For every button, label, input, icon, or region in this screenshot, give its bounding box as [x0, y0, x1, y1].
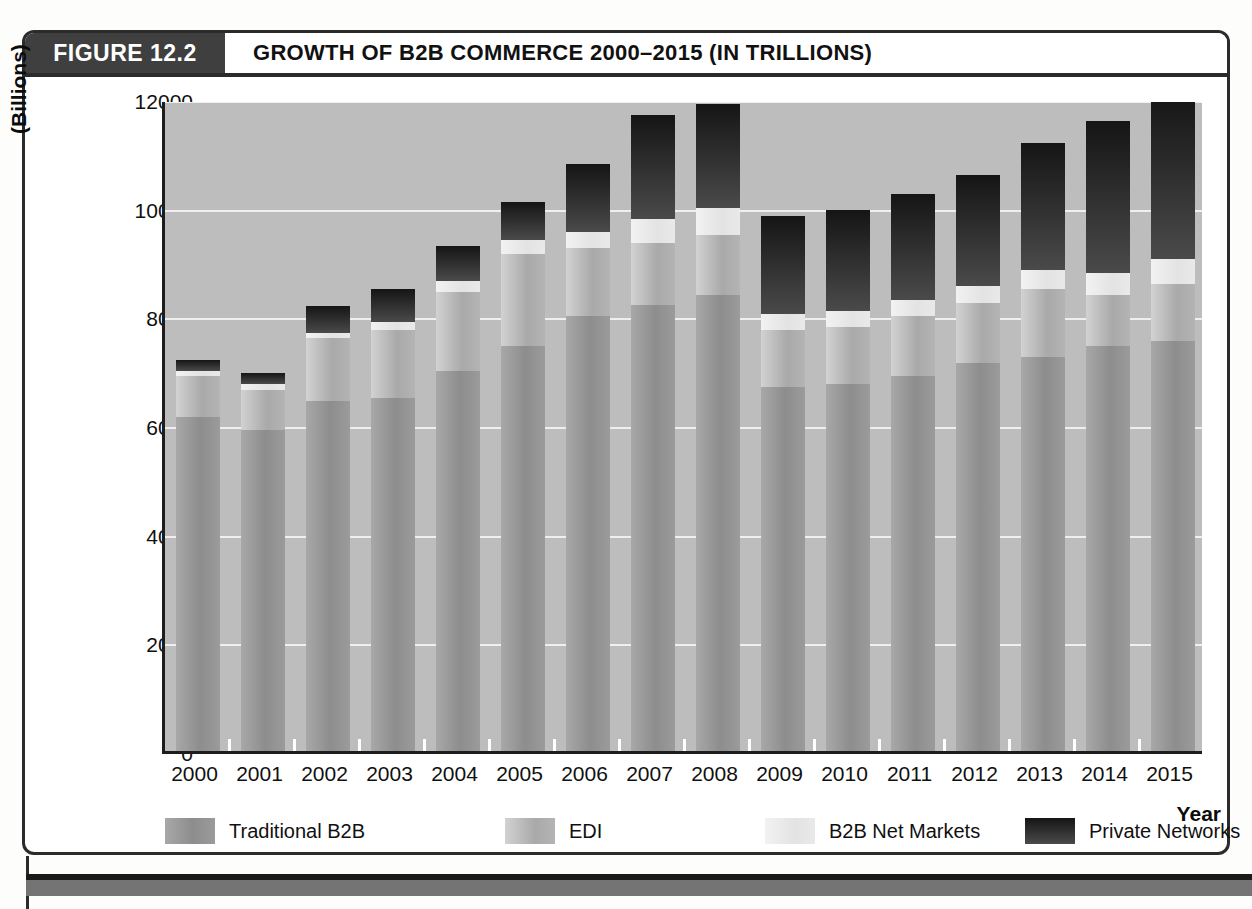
x-tick-label: 2004	[422, 762, 487, 786]
x-tick-label: 2008	[682, 762, 747, 786]
bar-segment[interactable]	[891, 316, 935, 376]
x-tickmark	[1008, 739, 1011, 751]
bar-segment[interactable]	[631, 115, 675, 218]
bar-segment[interactable]	[826, 327, 870, 384]
x-tick-label: 2000	[162, 762, 227, 786]
bar-segment[interactable]	[1151, 341, 1195, 751]
bar-stack[interactable]	[241, 373, 285, 751]
bar-segment[interactable]	[436, 281, 480, 292]
bar-segment[interactable]	[1086, 273, 1130, 295]
bar-segment[interactable]	[566, 164, 610, 232]
bar-segment[interactable]	[891, 376, 935, 751]
bar-segment[interactable]	[1151, 102, 1195, 259]
bar-stack[interactable]	[371, 289, 415, 751]
bar-segment[interactable]	[891, 300, 935, 316]
bar-stack[interactable]	[566, 164, 610, 751]
bar-segment[interactable]	[956, 175, 1000, 286]
x-tickmark	[618, 739, 621, 751]
bar-segment[interactable]	[566, 232, 610, 248]
bar-segment[interactable]	[1021, 289, 1065, 357]
bar-segment[interactable]	[1021, 143, 1065, 271]
bar-segment[interactable]	[436, 292, 480, 371]
figure-page: FIGURE 12.2 GROWTH OF B2B COMMERCE 2000–…	[0, 0, 1252, 909]
bar-segment[interactable]	[176, 376, 220, 417]
legend-item[interactable]: EDI	[505, 818, 602, 844]
bar-stack[interactable]	[761, 216, 805, 751]
bar-segment[interactable]	[1151, 259, 1195, 283]
bar-segment[interactable]	[956, 286, 1000, 302]
bar-segment[interactable]	[371, 398, 415, 751]
bar-segment[interactable]	[1086, 346, 1130, 751]
bar-segment[interactable]	[826, 210, 870, 311]
bar-segment[interactable]	[371, 289, 415, 322]
bar-stack[interactable]	[1086, 121, 1130, 751]
legend-item[interactable]: Traditional B2B	[165, 818, 365, 844]
bar-segment[interactable]	[241, 430, 285, 751]
bar-segment[interactable]	[306, 338, 350, 400]
bar-segment[interactable]	[566, 316, 610, 751]
bar-stack[interactable]	[631, 115, 675, 751]
bar-segment[interactable]	[501, 346, 545, 751]
bar-stack[interactable]	[891, 194, 935, 751]
chart-legend: Traditional B2BEDIB2B Net MarketsPrivate…	[25, 812, 1227, 850]
bar-segment[interactable]	[306, 306, 350, 333]
legend-label: B2B Net Markets	[829, 820, 980, 843]
bar-segment[interactable]	[761, 314, 805, 330]
x-tick-label: 2010	[812, 762, 877, 786]
bar-stack[interactable]	[956, 175, 1000, 751]
bar-segment[interactable]	[501, 254, 545, 346]
legend-label: EDI	[569, 820, 602, 843]
bar-stack[interactable]	[1151, 102, 1195, 751]
bar-segment[interactable]	[306, 401, 350, 751]
bar-segment[interactable]	[696, 208, 740, 235]
bar-segment[interactable]	[891, 194, 935, 300]
bar-segment[interactable]	[436, 371, 480, 751]
bar-segment[interactable]	[371, 322, 415, 330]
bar-segment[interactable]	[566, 248, 610, 316]
bar-stack[interactable]	[501, 202, 545, 751]
bar-stack[interactable]	[436, 246, 480, 751]
legend-item[interactable]: Private Networks	[1025, 818, 1240, 844]
bar-segment[interactable]	[826, 384, 870, 751]
bar-segment[interactable]	[761, 330, 805, 387]
bar-stack[interactable]	[176, 360, 220, 751]
plot-area	[162, 102, 1202, 754]
bar-segment[interactable]	[1086, 121, 1130, 273]
bar-segment[interactable]	[241, 390, 285, 431]
x-tickmark	[358, 739, 361, 751]
x-tickmark	[488, 739, 491, 751]
bar-segment[interactable]	[1021, 357, 1065, 751]
bar-segment[interactable]	[761, 387, 805, 751]
bar-segment[interactable]	[631, 243, 675, 305]
header-divider	[25, 73, 1227, 77]
bar-segment[interactable]	[1151, 284, 1195, 341]
bar-segment[interactable]	[176, 417, 220, 751]
bar-segment[interactable]	[501, 240, 545, 254]
bar-segment[interactable]	[631, 305, 675, 751]
bar-stack[interactable]	[1021, 143, 1065, 752]
legend-label: Traditional B2B	[229, 820, 365, 843]
legend-item[interactable]: B2B Net Markets	[765, 818, 980, 844]
bar-segment[interactable]	[696, 104, 740, 207]
x-tickmark	[813, 739, 816, 751]
x-tickmark	[293, 739, 296, 751]
x-tick-label: 2005	[487, 762, 552, 786]
bar-segment[interactable]	[1021, 270, 1065, 289]
bar-stack[interactable]	[306, 306, 350, 751]
bar-segment[interactable]	[241, 373, 285, 384]
bar-segment[interactable]	[1086, 295, 1130, 347]
bar-segment[interactable]	[631, 219, 675, 243]
bar-segment[interactable]	[696, 295, 740, 751]
bar-segment[interactable]	[436, 246, 480, 281]
bar-stack[interactable]	[826, 210, 870, 751]
bar-segment[interactable]	[501, 202, 545, 240]
bar-segment[interactable]	[696, 235, 740, 295]
bar-segment[interactable]	[826, 311, 870, 327]
bar-segment[interactable]	[371, 330, 415, 398]
bar-segment[interactable]	[176, 360, 220, 371]
bar-stack[interactable]	[696, 104, 740, 751]
page-bottom-band	[26, 874, 1252, 896]
bar-segment[interactable]	[956, 303, 1000, 363]
bar-segment[interactable]	[761, 216, 805, 314]
bar-segment[interactable]	[956, 363, 1000, 751]
